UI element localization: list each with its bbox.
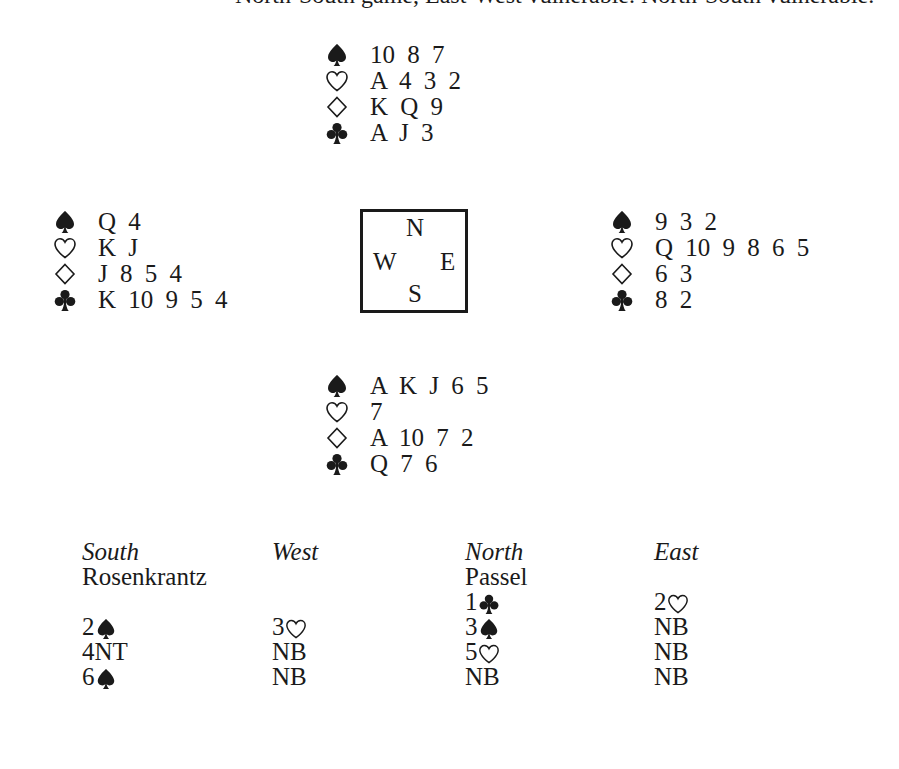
- bid-south: [82, 589, 272, 614]
- west-hearts-row: K J: [53, 235, 228, 261]
- north-hearts-row: A 4 3 2: [325, 68, 461, 94]
- east-spades-row: 9 3 2: [610, 209, 809, 235]
- south-hearts-row: 7: [325, 399, 488, 425]
- bid-west: NB: [272, 664, 465, 689]
- bid-level: NB: [654, 614, 689, 639]
- auction-bids: 12233NB4NTNB5NB6NBNBNB: [82, 589, 814, 689]
- spade-icon: [95, 613, 117, 639]
- east-hand: 9 3 2 Q 10 9 8 6 5 6 3 8 2: [610, 209, 809, 313]
- north-diamonds: K Q 9: [370, 94, 443, 120]
- bid-level: 6: [82, 664, 95, 689]
- east-diamonds-row: 6 3: [610, 261, 809, 287]
- player-south: Rosenkrantz: [82, 564, 272, 589]
- bid-level: 2: [82, 614, 95, 639]
- heart-icon: [285, 613, 307, 639]
- player-west: [272, 564, 465, 589]
- bid-east: NB: [654, 664, 814, 689]
- bid-west: [272, 589, 465, 614]
- bid-level: 2: [654, 589, 667, 614]
- compass-north: N: [406, 214, 424, 242]
- bid-north: 3: [465, 614, 654, 639]
- west-spades-row: Q 4: [53, 209, 228, 235]
- north-spades: 10 8 7: [370, 42, 445, 68]
- bid-north: 5: [465, 639, 654, 664]
- east-clubs: 8 2: [655, 287, 692, 313]
- bid-north: 1: [465, 589, 654, 614]
- bid-level: 3: [465, 614, 478, 639]
- diamond-icon: [325, 95, 370, 119]
- bid-level: NB: [465, 664, 500, 689]
- club-icon: [53, 288, 98, 312]
- compass-east: E: [440, 248, 455, 276]
- bid-level: NB: [272, 664, 307, 689]
- spade-icon: [478, 613, 500, 639]
- south-clubs-row: Q 7 6: [325, 451, 488, 477]
- north-clubs-row: A J 3: [325, 120, 461, 146]
- spade-icon: [95, 663, 117, 689]
- spade-icon: [53, 210, 98, 234]
- heart-icon: [478, 638, 500, 664]
- east-diamonds: 6 3: [655, 261, 692, 287]
- spade-icon: [610, 210, 655, 234]
- west-spades: Q 4: [98, 209, 141, 235]
- caption-cutoff: North-South game, East-West vulnerable. …: [235, 0, 874, 9]
- bid-north: NB: [465, 664, 654, 689]
- west-diamonds-row: J 8 5 4: [53, 261, 228, 287]
- bid-east: NB: [654, 639, 814, 664]
- auction-bid-row: 4NTNB5NB: [82, 639, 814, 664]
- spade-icon: [325, 43, 370, 67]
- compass-south: S: [408, 280, 422, 308]
- auction-bid-row: 6NBNBNB: [82, 664, 814, 689]
- heart-icon: [53, 236, 98, 260]
- south-clubs: Q 7 6: [370, 451, 438, 477]
- player-north: Passel: [465, 564, 654, 589]
- south-spades-row: A K J 6 5: [325, 373, 488, 399]
- auction-header-row: South West North East: [82, 539, 814, 564]
- east-spades: 9 3 2: [655, 209, 717, 235]
- south-diamonds: A 10 7 2: [370, 425, 473, 451]
- club-icon: [610, 288, 655, 312]
- bid-west: NB: [272, 639, 465, 664]
- bid-level: 1: [465, 589, 478, 614]
- bid-level: NB: [654, 664, 689, 689]
- south-diamonds-row: A 10 7 2: [325, 425, 488, 451]
- north-hearts: A 4 3 2: [370, 68, 461, 94]
- north-diamonds-row: K Q 9: [325, 94, 461, 120]
- bid-south: 6: [82, 664, 272, 689]
- bid-level: 3: [272, 614, 285, 639]
- bid-level: 5: [465, 639, 478, 664]
- bid-level: NB: [654, 639, 689, 664]
- south-hearts: 7: [370, 399, 383, 425]
- compass-box: N W E S: [360, 209, 468, 313]
- south-hand: A K J 6 5 7 A 10 7 2 Q 7 6: [325, 373, 488, 477]
- header-west: West: [272, 539, 465, 564]
- heart-icon: [667, 588, 689, 614]
- bid-east: NB: [654, 614, 814, 639]
- bid-south: 4NT: [82, 639, 272, 664]
- west-clubs-row: K 10 9 5 4: [53, 287, 228, 313]
- bid-west: 3: [272, 614, 465, 639]
- heart-icon: [325, 400, 370, 424]
- diamond-icon: [610, 262, 655, 286]
- club-icon: [325, 121, 370, 145]
- east-hearts-row: Q 10 9 8 6 5: [610, 235, 809, 261]
- west-diamonds: J 8 5 4: [98, 261, 182, 287]
- heart-icon: [325, 69, 370, 93]
- diamond-icon: [325, 426, 370, 450]
- heart-icon: [610, 236, 655, 260]
- bid-level: 4NT: [82, 639, 128, 664]
- north-clubs: A J 3: [370, 120, 433, 146]
- west-hand: Q 4 K J J 8 5 4 K 10 9 5 4: [53, 209, 228, 313]
- bid-east: 2: [654, 589, 814, 614]
- header-east: East: [654, 539, 814, 564]
- auction-bid-row: 12: [82, 589, 814, 614]
- west-hearts: K J: [98, 235, 138, 261]
- south-spades: A K J 6 5: [370, 373, 488, 399]
- header-north: North: [465, 539, 654, 564]
- club-icon: [478, 588, 500, 614]
- player-east: [654, 564, 814, 589]
- bid-south: 2: [82, 614, 272, 639]
- bid-level: NB: [272, 639, 307, 664]
- auction-table: South West North East Rosenkrantz Passel…: [82, 539, 814, 689]
- north-spades-row: 10 8 7: [325, 42, 461, 68]
